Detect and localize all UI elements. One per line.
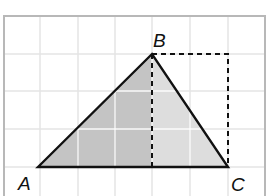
triangle-diagram: A B C <box>0 0 270 196</box>
vertex-label-a: A <box>17 173 31 194</box>
vertex-label-b: B <box>153 30 166 51</box>
vertex-label-c: C <box>231 174 245 195</box>
triangle-shapes <box>4 16 265 196</box>
